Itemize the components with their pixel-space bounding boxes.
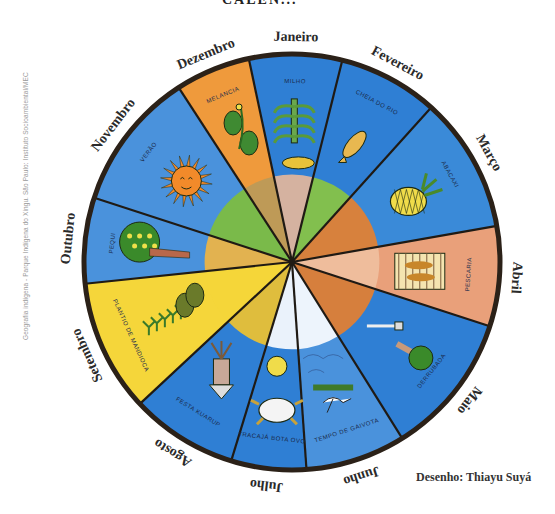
month-label-julho: Julho bbox=[249, 477, 284, 496]
month-label-junho: Junho bbox=[342, 464, 382, 490]
fish-trap-icon bbox=[395, 253, 445, 289]
activity-label: MILHO bbox=[284, 78, 306, 84]
month-label-outubro: Outubro bbox=[58, 212, 78, 265]
seasonal-calendar-wheel: MILHOCHEIA DO RIOABACAXIPESCARIADERRUBAD… bbox=[0, 0, 555, 514]
month-label-abril: Abril bbox=[508, 261, 525, 294]
month-label-janeiro: Janeiro bbox=[273, 29, 318, 45]
source-credit: Geografia indígena - Parque Indígena do … bbox=[22, 72, 29, 340]
artist-signature: Desenho: Thiayu Suyá bbox=[416, 470, 531, 485]
